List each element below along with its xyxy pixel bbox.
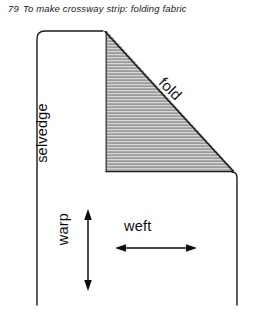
warp-arrow [84,209,92,291]
label-warp: warp [55,199,71,259]
label-weft: weft [124,218,151,234]
weft-arrow [115,244,197,252]
fabric-right-edge-line [232,172,237,305]
figure-crossway-strip: 79To make crossway strip: folding fabric [0,0,265,322]
label-selvedge: selvedge [34,83,50,183]
